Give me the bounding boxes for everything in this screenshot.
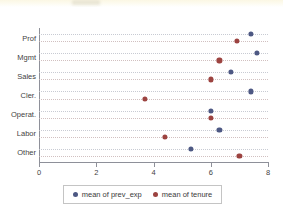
top-edge-artifact [0,0,283,7]
y-axis-tick-label: Operat. [0,110,36,119]
y-axis-tick-label: Prof [0,33,36,42]
legend-entry-tenure: mean of tenure [153,190,212,199]
x-axis-tick-mark [211,163,212,167]
x-axis-tick-label: 0 [37,168,41,177]
legend-marker-icon-tenure [153,192,158,197]
legend-label-tenure: mean of tenure [162,190,212,199]
plot-area [39,28,268,162]
chart-legend: mean of prev_exp mean of tenure [63,185,222,204]
x-axis-tick-label: 4 [151,168,155,177]
grid-line [39,34,268,36]
chart-canvas: ProfMgmtSalesCler.Operat.LaborOther 0246… [0,7,283,204]
grid-line [39,79,268,81]
grid-line [39,72,268,74]
grid-line [39,53,268,55]
y-axis-tick-label: Sales [0,71,36,80]
grid-line [39,118,268,120]
x-axis-tick-label: 6 [209,168,213,177]
x-axis-tick-mark [154,163,155,167]
legend-marker-icon-prev-exp [73,192,78,197]
chart-screenshot: ProfMgmtSalesCler.Operat.LaborOther 0246… [0,0,283,204]
legend-entry-prev-exp: mean of prev_exp [73,190,142,199]
grid-line [39,91,268,93]
legend-label-prev-exp: mean of prev_exp [82,190,142,199]
x-axis-tick-mark [268,163,269,167]
grid-line [39,156,268,158]
y-axis-tick-label: Mgmt [0,52,36,61]
grid-line [39,111,268,113]
grid-line [39,130,268,132]
x-axis-tick-mark [39,163,40,167]
grid-line [39,137,268,139]
x-axis-tick-mark [96,163,97,167]
artifact-smudge [72,0,100,5]
grid-line [39,60,268,62]
y-axis-tick-label: Labor [0,129,36,138]
x-axis-tick-label: 2 [94,168,98,177]
y-axis-tick-label: Cler. [0,91,36,100]
y-axis-tick-label: Other [0,148,36,157]
grid-line [39,99,268,101]
x-axis-tick-label: 8 [266,168,270,177]
grid-line [39,149,268,151]
